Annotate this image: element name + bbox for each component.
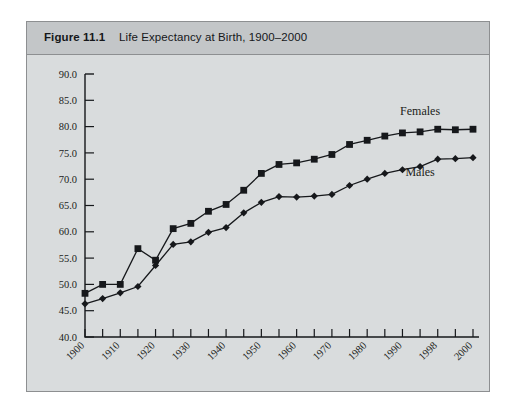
data-point-males [469, 154, 476, 161]
x-tick-label: 1910 [99, 340, 122, 363]
data-point-males [205, 229, 212, 236]
data-point-males [346, 182, 353, 189]
data-point-females [223, 201, 230, 208]
data-point-males [99, 295, 106, 302]
data-point-males [434, 156, 441, 163]
x-tick-label: 2000 [452, 340, 475, 363]
figure-header: Figure 11.1 Life Expectancy at Birth, 19… [27, 22, 489, 55]
data-point-females [452, 126, 459, 133]
data-point-females [82, 290, 89, 297]
data-point-males [364, 176, 371, 183]
x-tick-label: 1970 [311, 340, 334, 363]
data-point-females [170, 225, 177, 232]
series-line-females [85, 129, 473, 293]
x-tick-label: 1990 [381, 340, 404, 363]
data-point-females [276, 161, 283, 168]
y-tick-label: 65.0 [59, 200, 77, 211]
y-tick-label: 55.0 [59, 253, 77, 264]
y-tick-label: 45.0 [59, 305, 77, 316]
figure-title: Life Expectancy at Birth, 1900–2000 [119, 31, 307, 43]
data-point-females [381, 133, 388, 140]
y-tick-label: 75.0 [59, 148, 77, 159]
data-point-females [417, 128, 424, 135]
x-axis: 1900191019201930194019501960197019801990… [64, 329, 475, 362]
data-point-females [346, 141, 353, 148]
figure-number: Figure 11.1 [44, 31, 105, 43]
x-tick-label: 1960 [275, 340, 298, 363]
data-point-males [187, 238, 194, 245]
data-point-females [117, 281, 124, 288]
chart-body: 90.085.080.075.070.065.060.055.050.045.0… [27, 55, 489, 391]
data-point-males [311, 192, 318, 199]
data-point-females [311, 156, 318, 163]
data-point-females [99, 281, 106, 288]
x-tick-label: 1940 [205, 340, 228, 363]
data-point-females [329, 151, 336, 158]
data-series [81, 126, 476, 308]
data-point-males [117, 289, 124, 296]
x-tick-label: 1980 [346, 340, 369, 363]
data-point-females [205, 208, 212, 215]
x-tick-label: 1930 [170, 340, 193, 363]
data-point-males [381, 170, 388, 177]
y-tick-label: 40.0 [59, 332, 77, 343]
y-tick-label: 85.0 [59, 95, 77, 106]
data-point-males [452, 155, 459, 162]
data-point-females [135, 245, 142, 252]
series-label-females: Females [400, 104, 440, 118]
data-point-females [293, 159, 300, 166]
data-point-females [240, 187, 247, 194]
data-point-males [328, 191, 335, 198]
series-line-males [85, 158, 473, 304]
y-axis: 90.085.080.075.070.065.060.055.050.045.0… [59, 69, 94, 343]
series-labels: FemalesMales [400, 104, 440, 179]
series-label-males: Males [405, 165, 435, 179]
figure-container: Figure 11.1 Life Expectancy at Birth, 19… [26, 21, 490, 392]
x-tick-label: 1998 [417, 340, 440, 363]
data-point-females [364, 137, 371, 144]
x-tick-label: 1900 [64, 340, 87, 363]
y-tick-label: 70.0 [59, 174, 77, 185]
data-point-females [399, 130, 406, 137]
y-tick-label: 50.0 [59, 279, 77, 290]
x-tick-label: 1920 [134, 340, 157, 363]
data-point-males [275, 193, 282, 200]
data-point-males [258, 199, 265, 206]
data-point-females [470, 126, 477, 133]
data-point-females [258, 170, 265, 177]
data-point-females [434, 126, 441, 133]
data-point-males [81, 300, 88, 307]
line-chart: 90.085.080.075.070.065.060.055.050.045.0… [27, 55, 489, 391]
y-tick-label: 90.0 [59, 69, 77, 80]
data-point-males [293, 193, 300, 200]
y-tick-label: 80.0 [59, 121, 77, 132]
x-tick-label: 1950 [240, 340, 263, 363]
y-tick-label: 60.0 [59, 226, 77, 237]
data-point-females [187, 220, 194, 227]
